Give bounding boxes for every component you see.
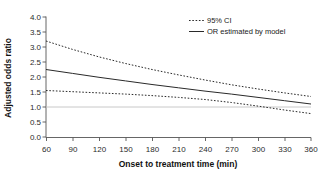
x-tick-label: 210 [172, 145, 186, 154]
y-tick-label: 3.0 [30, 43, 42, 52]
y-tick-label: 1.5 [30, 88, 42, 97]
y-tick-label: 2.5 [30, 58, 42, 67]
x-tick-label: 360 [304, 145, 318, 154]
y-tick-label: 4.0 [30, 13, 42, 22]
y-tick-label: 3.5 [30, 28, 42, 37]
y-axis-title: Adjusted odds ratio [3, 38, 13, 118]
x-tick-label: 240 [199, 145, 213, 154]
figure-container: Adjusted odds ratio 4.0 3.5 3.0 2.5 2.0 … [0, 0, 321, 183]
x-tick-label: 60 [42, 145, 51, 154]
caption-strip [0, 173, 321, 183]
x-axis-title: Onset to treatment time (min) [119, 159, 238, 169]
y-tick-labels: 4.0 3.5 3.0 2.5 2.0 1.5 1.0 0.5 0.0 [30, 13, 42, 142]
x-tick-label: 180 [146, 145, 160, 154]
x-tick-label: 90 [69, 145, 78, 154]
x-tick-label: 120 [93, 145, 107, 154]
x-tick-label: 300 [252, 145, 266, 154]
y-tick-label: 1.0 [30, 103, 42, 112]
odds-ratio-line-chart: Adjusted odds ratio 4.0 3.5 3.0 2.5 2.0 … [0, 0, 321, 183]
x-tick-label: 270 [225, 145, 239, 154]
y-tick-label: 2.0 [30, 73, 42, 82]
x-tick-label: 330 [278, 145, 292, 154]
legend-label-or: OR estimated by model [207, 27, 286, 36]
y-tick-label: 0.0 [30, 133, 42, 142]
y-tick-label: 0.5 [30, 118, 42, 127]
legend-label-ci: 95% CI [207, 16, 232, 25]
x-tick-label: 150 [119, 145, 133, 154]
